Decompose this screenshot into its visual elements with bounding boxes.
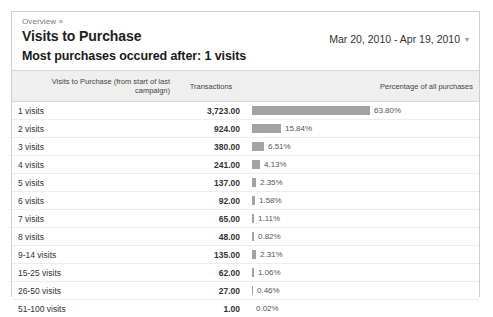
cell-percentage: 4.13%	[246, 156, 479, 174]
percentage-bar-wrapper: 1.06%	[252, 264, 473, 281]
cell-percentage: 0.46%	[246, 282, 479, 300]
cell-transactions: 1.00	[176, 300, 246, 317]
cell-transactions: 924.00	[176, 120, 246, 138]
table-row: 15-25 visits62.001.06%	[12, 264, 479, 282]
percentage-label: 1.06%	[258, 268, 281, 277]
cell-percentage: 63.80%	[246, 102, 479, 120]
cell-visits-label: 7 visits	[12, 210, 176, 228]
percentage-bar-wrapper: 0.82%	[252, 228, 473, 245]
breadcrumb[interactable]: Overview »	[22, 17, 469, 27]
cell-visits-label: 26-50 visits	[12, 282, 176, 300]
cell-transactions: 3,723.00	[176, 102, 246, 120]
date-range-selector[interactable]: Mar 20, 2010 - Apr 19, 2010▾	[329, 33, 469, 45]
percentage-bar-wrapper: 4.13%	[252, 156, 473, 173]
percentage-bar	[252, 178, 256, 187]
percentage-label: 0.46%	[257, 286, 280, 295]
table-row: 1 visits3,723.0063.80%	[12, 102, 479, 120]
percentage-label: 2.35%	[260, 178, 283, 187]
percentage-label: 1.11%	[258, 214, 280, 223]
visits-to-purchase-table: Visits to Purchase (from start of last c…	[12, 70, 479, 317]
date-range-label: Mar 20, 2010 - Apr 19, 2010	[329, 33, 460, 45]
cell-transactions: 135.00	[176, 246, 246, 264]
percentage-bar	[252, 196, 255, 205]
percentage-label: 15.84%	[285, 124, 312, 133]
percentage-label: 0.82%	[258, 232, 281, 241]
percentage-bar	[252, 268, 254, 277]
table-row: 5 visits137.002.35%	[12, 174, 479, 192]
percentage-bar-wrapper: 63.80%	[252, 102, 473, 119]
table-row: 3 visits380.006.51%	[12, 138, 479, 156]
cell-visits-label: 5 visits	[12, 174, 176, 192]
percentage-label: 0.02%	[256, 304, 279, 313]
cell-percentage: 1.11%	[246, 210, 479, 228]
table-row: 51-100 visits1.000.02%	[12, 300, 479, 317]
percentage-label: 4.13%	[264, 160, 287, 169]
cell-percentage: 1.06%	[246, 264, 479, 282]
percentage-bar-wrapper: 2.31%	[252, 246, 473, 263]
table-header-row: Visits to Purchase (from start of last c…	[12, 71, 479, 102]
report-panel: Overview » Visits to Purchase Mar 20, 20…	[11, 11, 480, 297]
percentage-bar	[252, 232, 254, 241]
cell-transactions: 137.00	[176, 174, 246, 192]
percentage-bar	[252, 286, 253, 295]
cell-percentage: 2.31%	[246, 246, 479, 264]
cell-percentage: 1.58%	[246, 192, 479, 210]
percentage-bar	[252, 160, 260, 169]
report-header: Overview » Visits to Purchase Mar 20, 20…	[12, 12, 479, 68]
percentage-bar	[252, 106, 370, 115]
percentage-label: 6.51%	[268, 142, 291, 151]
cell-transactions: 241.00	[176, 156, 246, 174]
percentage-bar	[252, 250, 256, 259]
cell-transactions: 62.00	[176, 264, 246, 282]
table-row: 26-50 visits27.000.46%	[12, 282, 479, 300]
percentage-bar-wrapper: 0.02%	[252, 300, 473, 317]
column-header-percentage[interactable]: Percentage of all purchases	[246, 71, 479, 102]
cell-visits-label: 9-14 visits	[12, 246, 176, 264]
table-row: 6 visits92.001.58%	[12, 192, 479, 210]
cell-visits-label: 8 visits	[12, 228, 176, 246]
cell-visits-label: 2 visits	[12, 120, 176, 138]
percentage-label: 2.31%	[260, 250, 283, 259]
percentage-bar-wrapper: 1.58%	[252, 192, 473, 209]
cell-percentage: 2.35%	[246, 174, 479, 192]
percentage-bar-wrapper: 0.46%	[252, 282, 473, 299]
percentage-label: 63.80%	[374, 106, 401, 115]
percentage-bar-wrapper: 2.35%	[252, 174, 473, 191]
cell-visits-label: 1 visits	[12, 102, 176, 120]
table-row: 8 visits48.000.82%	[12, 228, 479, 246]
column-header-transactions[interactable]: Transactions	[176, 71, 246, 102]
percentage-bar	[252, 214, 254, 223]
percentage-bar-wrapper: 6.51%	[252, 138, 473, 155]
table-row: 9-14 visits135.002.31%	[12, 246, 479, 264]
percentage-bar	[252, 124, 281, 133]
cell-percentage: 15.84%	[246, 120, 479, 138]
column-header-visits[interactable]: Visits to Purchase (from start of last c…	[12, 71, 176, 102]
cell-transactions: 27.00	[176, 282, 246, 300]
percentage-bar-wrapper: 1.11%	[252, 210, 473, 227]
cell-percentage: 6.51%	[246, 138, 479, 156]
cell-visits-label: 4 visits	[12, 156, 176, 174]
percentage-bar-wrapper: 15.84%	[252, 120, 473, 137]
cell-visits-label: 51-100 visits	[12, 300, 176, 317]
percentage-label: 1.58%	[259, 196, 282, 205]
chevron-down-icon: ▾	[465, 35, 469, 44]
cell-transactions: 92.00	[176, 192, 246, 210]
summary-text: Most purchases occured after: 1 visits	[22, 49, 469, 64]
cell-visits-label: 6 visits	[12, 192, 176, 210]
table-row: 2 visits924.0015.84%	[12, 120, 479, 138]
cell-transactions: 65.00	[176, 210, 246, 228]
cell-visits-label: 3 visits	[12, 138, 176, 156]
cell-percentage: 0.02%	[246, 300, 479, 317]
cell-percentage: 0.82%	[246, 228, 479, 246]
table-row: 7 visits65.001.11%	[12, 210, 479, 228]
cell-transactions: 380.00	[176, 138, 246, 156]
cell-visits-label: 15-25 visits	[12, 264, 176, 282]
table-body: 1 visits3,723.0063.80%2 visits924.0015.8…	[12, 102, 479, 317]
percentage-bar	[252, 142, 264, 151]
cell-transactions: 48.00	[176, 228, 246, 246]
table-row: 4 visits241.004.13%	[12, 156, 479, 174]
